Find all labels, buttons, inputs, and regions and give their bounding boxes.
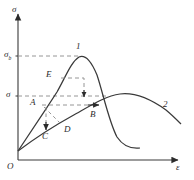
E-dashed-construction	[61, 78, 84, 97]
x-axis-label: ε	[176, 163, 180, 172]
stress-strain-diagram: σ ε O σb σ 1 2 A B C D E	[0, 0, 194, 180]
point-label-E: E	[46, 70, 52, 79]
origin-label: O	[7, 162, 14, 171]
curve-2-label: 2	[163, 100, 168, 109]
sigma-b-tick-label: σb	[4, 50, 11, 61]
curve-1-label: 1	[76, 42, 81, 51]
point-label-B: B	[90, 110, 96, 119]
y-axis-label: σ	[12, 5, 16, 14]
sigma-tick-label: σ	[6, 90, 10, 99]
point-label-D: D	[64, 125, 71, 134]
curve-2-path	[18, 94, 181, 151]
point-label-A: A	[30, 98, 36, 107]
diagram-canvas	[0, 0, 194, 180]
point-label-C: C	[42, 132, 48, 141]
E-dashed-box	[61, 78, 84, 93]
curve-1-path	[18, 56, 140, 151]
